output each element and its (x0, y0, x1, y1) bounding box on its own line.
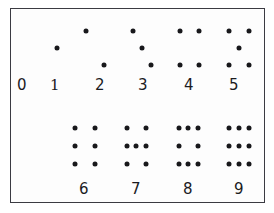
dot (237, 126, 242, 131)
dot (247, 144, 252, 149)
dot (227, 162, 232, 167)
dot-number-chart-page: 0123456789 (0, 0, 274, 213)
dot (247, 126, 252, 131)
dot-cluster-9 (0, 0, 274, 213)
dot (237, 162, 242, 167)
dot (247, 162, 252, 167)
dot (227, 144, 232, 149)
digit-label-9: 9 (234, 180, 244, 198)
chart-plot-area: 0123456789 (0, 0, 274, 213)
dot (227, 126, 232, 131)
dot (237, 144, 242, 149)
